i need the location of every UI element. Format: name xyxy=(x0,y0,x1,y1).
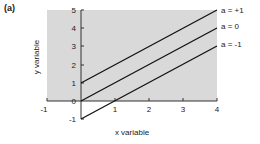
y-tick-label: 3 xyxy=(72,42,77,51)
y-tick-label: 2 xyxy=(72,61,77,70)
x-tick-label: 2 xyxy=(147,105,152,114)
x-tick-label: 4 xyxy=(215,105,220,114)
x-axis-label: x variable xyxy=(115,128,150,137)
line-chart: -1 1 2 3 4 5 4 3 2 1 0 -1 a = +1 a = 0 a… xyxy=(0,0,260,144)
y-tick-label: 1 xyxy=(72,79,77,88)
legend-a-zero: a = 0 xyxy=(221,22,240,31)
y-axis-label: y variable xyxy=(32,39,41,74)
y-tick-label: -1 xyxy=(69,115,77,124)
y-tick-label: 4 xyxy=(72,24,77,33)
x-tick-label: 3 xyxy=(181,105,186,114)
legend-a-minus-1: a = -1 xyxy=(221,40,242,49)
x-tick-label: 1 xyxy=(113,105,118,114)
y-tick-label: 5 xyxy=(72,6,77,15)
y-tick-label: 0 xyxy=(72,97,77,106)
x-tick-label: -1 xyxy=(40,105,48,114)
legend-a-plus-1: a = +1 xyxy=(221,6,244,15)
